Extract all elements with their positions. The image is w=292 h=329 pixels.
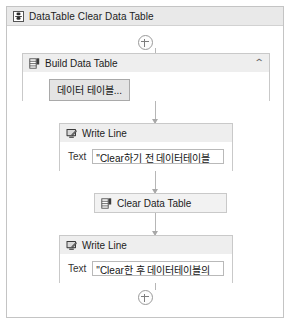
write-line-icon xyxy=(66,240,77,251)
activity-write-line-2[interactable]: Write Line Text "Clear한 후 데이터테이블의 xyxy=(59,235,233,283)
write-line-2-text-row: Text "Clear한 후 데이터테이블의 xyxy=(68,261,224,276)
write-line-2-body: Text "Clear한 후 데이터테이블의 xyxy=(60,254,232,283)
connector-bottom xyxy=(155,283,156,290)
sequence-body: Build Data Table ⌃ 데이터 테이블... xyxy=(7,26,283,317)
datatable-icon xyxy=(29,58,40,69)
connector-3 xyxy=(155,213,156,235)
write-line-2-text-input[interactable]: "Clear한 후 데이터테이블의 xyxy=(92,261,224,276)
clear-data-table-title: Clear Data Table xyxy=(117,198,191,209)
write-line-icon xyxy=(66,128,77,139)
write-line-1-text-label: Text xyxy=(68,151,86,162)
write-line-2-title: Write Line xyxy=(82,240,127,251)
write-line-1-header[interactable]: Write Line xyxy=(60,124,232,142)
build-data-table-title: Build Data Table xyxy=(45,58,118,69)
write-line-1-body: Text "Clear하기 전 데이터테이블 xyxy=(60,142,232,171)
datatable-icon xyxy=(13,11,24,22)
data-table-editor-button[interactable]: 데이터 테이블... xyxy=(49,79,130,101)
bottom-handle-slot xyxy=(7,290,283,305)
write-line-2-header[interactable]: Write Line xyxy=(60,236,232,254)
sequence-container[interactable]: DataTable Clear Data Table xyxy=(6,6,284,318)
chevron-up-icon[interactable]: ⌃ xyxy=(253,58,264,68)
add-activity-top-icon[interactable] xyxy=(138,35,153,50)
write-line-2-text-label: Text xyxy=(68,263,86,274)
connector-1 xyxy=(155,101,156,123)
write-line-1-text-row: Text "Clear하기 전 데이터테이블 xyxy=(68,149,224,164)
write-line-1-title: Write Line xyxy=(82,128,127,139)
activity-write-line-1[interactable]: Write Line Text "Clear하기 전 데이터테이블 xyxy=(59,123,233,171)
window-title: DataTable Clear Data Table xyxy=(29,11,154,22)
activity-clear-data-table[interactable]: Clear Data Table xyxy=(94,193,227,213)
build-data-table-body: 데이터 테이블... xyxy=(23,72,269,108)
connector-2 xyxy=(155,171,156,193)
datatable-icon xyxy=(101,198,112,209)
sequence-header[interactable]: DataTable Clear Data Table xyxy=(7,7,283,26)
write-line-1-text-input[interactable]: "Clear하기 전 데이터테이블 xyxy=(92,149,224,164)
activity-build-data-table[interactable]: Build Data Table ⌃ 데이터 테이블... xyxy=(22,53,270,101)
add-activity-bottom-icon[interactable] xyxy=(138,290,153,305)
build-data-table-header[interactable]: Build Data Table ⌃ xyxy=(23,54,269,72)
top-handle-slot xyxy=(7,35,283,50)
